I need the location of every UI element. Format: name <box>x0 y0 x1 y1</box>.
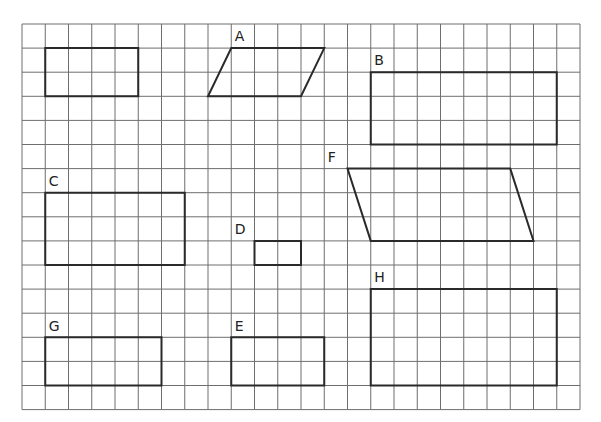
shape-label-d: D <box>235 221 246 237</box>
labels-layer: ABFCDHGE <box>49 28 385 333</box>
shape-label-a: A <box>235 28 245 44</box>
shape-label-f: F <box>328 149 336 165</box>
shape-label-h: H <box>374 269 385 285</box>
shape-label-e: E <box>235 318 244 334</box>
grid-diagram: ABFCDHGE <box>0 0 601 422</box>
shape-label-g: G <box>49 318 60 334</box>
shape-label-b: B <box>374 52 384 68</box>
grid-paper: ABFCDHGE <box>0 0 601 422</box>
grid-lines <box>22 24 580 410</box>
shape-label-c: C <box>49 173 59 189</box>
